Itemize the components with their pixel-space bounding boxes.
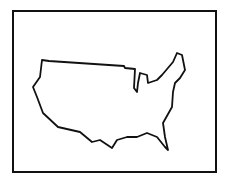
- us-outline-icon: [0, 0, 234, 187]
